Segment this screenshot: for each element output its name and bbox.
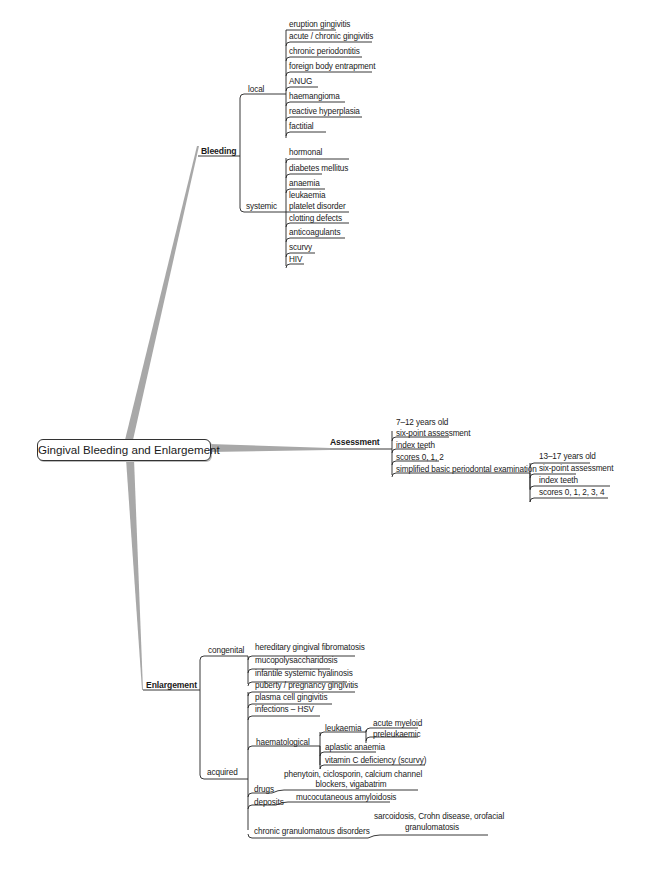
- leaf-node-line1[interactable]: sarcoidosis, Crohn disease, orofacial: [374, 812, 490, 822]
- leaf-node[interactable]: mucopolysaccharidosis: [255, 656, 338, 666]
- leaf-node[interactable]: hormonal: [289, 148, 322, 158]
- leaf-node[interactable]: index teeth: [396, 441, 435, 451]
- leaf-node[interactable]: HIV: [289, 255, 302, 265]
- leaf-node[interactable]: diabetes mellitus: [289, 164, 348, 174]
- leaf-node[interactable]: aplastic anaemia: [325, 743, 385, 753]
- leaf-node-line1[interactable]: phenytoin, ciclosporin, calcium channel: [284, 770, 418, 780]
- systemic-node[interactable]: systemic: [246, 202, 277, 212]
- leaf-node-line2[interactable]: blockers, vigabatrim: [284, 780, 418, 790]
- leukaemia-node[interactable]: leukaemia: [325, 724, 361, 734]
- local-node[interactable]: local: [248, 85, 264, 95]
- leaf-node[interactable]: mucocutaneous amyloidosis: [296, 793, 396, 803]
- acquired-node[interactable]: acquired: [207, 768, 238, 778]
- leaf-node[interactable]: simplified basic periodontal examination: [396, 465, 537, 475]
- leaf-node[interactable]: scurvy: [289, 243, 312, 253]
- root-node[interactable]: Gingival Bleeding and Enlargement: [37, 439, 211, 461]
- leaf-node[interactable]: hereditary gingival fibromatosis: [255, 643, 365, 653]
- chronic-granulomatous-node[interactable]: chronic granulomatous disorders: [254, 827, 370, 837]
- leaf-node[interactable]: 7–12 years old: [396, 418, 448, 428]
- leaf-node[interactable]: haemangioma: [289, 92, 340, 102]
- enlargement-node[interactable]: Enlargement: [146, 680, 197, 690]
- leaf-node[interactable]: platelet disorder: [289, 202, 346, 212]
- leaf-node[interactable]: six-point assessment: [539, 464, 613, 474]
- leaf-node[interactable]: chronic periodontitis: [289, 47, 360, 57]
- drugs-node[interactable]: drugs: [254, 785, 274, 795]
- leaf-node[interactable]: acute myeloid: [373, 719, 422, 729]
- leaf-node[interactable]: acute / chronic gingivitis: [289, 32, 373, 42]
- leaf-node[interactable]: anticoagulants: [289, 228, 340, 238]
- leaf-node[interactable]: eruption gingivitis: [289, 20, 350, 30]
- bleeding-node[interactable]: Bleeding: [201, 146, 237, 156]
- leaf-node[interactable]: vitamin C deficiency (scurvy): [325, 756, 426, 766]
- haematological-node[interactable]: haematological: [256, 738, 310, 748]
- leaf-node-line2[interactable]: granulomatosis: [374, 823, 490, 833]
- leaf-node[interactable]: reactive hyperplasia: [289, 107, 360, 117]
- deposits-node[interactable]: deposits: [254, 798, 284, 808]
- leaf-node[interactable]: leukaemia: [289, 191, 325, 201]
- assessment-node[interactable]: Assessment: [330, 437, 380, 447]
- leaf-node[interactable]: index teeth: [539, 476, 578, 486]
- leaf-node[interactable]: ANUG: [289, 77, 312, 87]
- leaf-node[interactable]: anaemia: [289, 179, 320, 189]
- leaf-node[interactable]: clotting defects: [289, 214, 342, 224]
- congenital-node[interactable]: congenital: [208, 646, 244, 656]
- leaf-node[interactable]: factitial: [289, 122, 314, 132]
- leaf-node[interactable]: foreign body entrapment: [289, 62, 375, 72]
- leaf-node[interactable]: scores 0, 1, 2: [396, 453, 444, 463]
- leaf-node[interactable]: plasma cell gingivitis: [255, 693, 327, 703]
- leaf-node[interactable]: six-point assessment: [396, 429, 470, 439]
- leaf-node[interactable]: infantile systemic hyalinosis: [255, 669, 353, 679]
- leaf-node[interactable]: scores 0, 1, 2, 3, 4: [539, 488, 604, 498]
- leaf-node[interactable]: preleukaemic: [373, 730, 421, 740]
- leaf-node[interactable]: 13–17 years old: [539, 452, 596, 462]
- leaf-node[interactable]: puberty / pregnancy gingivitis: [255, 681, 358, 691]
- leaf-node[interactable]: infections – HSV: [255, 705, 314, 715]
